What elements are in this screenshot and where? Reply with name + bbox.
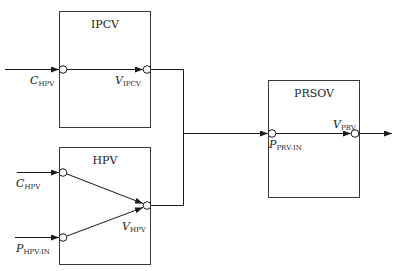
- hpv-input2-port: [59, 234, 67, 242]
- ipcv-title: IPCV: [91, 18, 120, 31]
- ipcv-input-port: [59, 66, 67, 74]
- prsov-title: PRSOV: [294, 87, 335, 100]
- ipcv-output-port: [143, 66, 151, 74]
- hpv-block: HPV: [60, 148, 151, 265]
- hpv-output-port: [143, 202, 151, 210]
- prsov-input-port: [268, 130, 276, 138]
- block-diagram: IPCV HPV PRSOV CHPV VIPCV CHPV PHPV-IN V…: [0, 0, 400, 271]
- hpv-title: HPV: [93, 154, 119, 167]
- junction-wire: [151, 70, 184, 206]
- label-ipcv-in: CHPV: [30, 74, 55, 88]
- label-hpv-in2: PHPV-IN: [15, 242, 50, 256]
- prsov-block: PRSOV: [269, 81, 360, 198]
- label-hpv-in1: CHPV: [16, 177, 41, 191]
- hpv-input1-port: [59, 169, 67, 177]
